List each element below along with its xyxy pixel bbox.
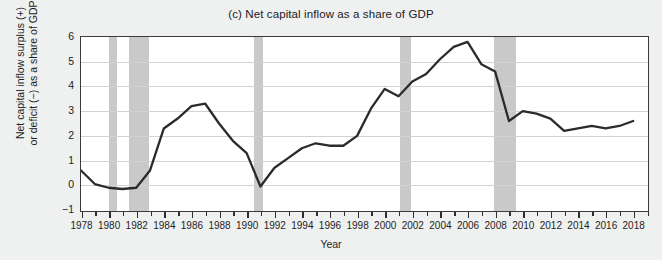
x-axis-tick-label: 2016	[595, 220, 617, 231]
x-axis-tick	[620, 212, 621, 216]
x-axis-tick-label: 1990	[236, 220, 258, 231]
x-axis-tick-label: 1978	[70, 220, 92, 231]
x-axis-tick-label: 2004	[429, 220, 451, 231]
x-axis-tick	[371, 212, 372, 216]
y-axis-tick-label: 6	[48, 30, 74, 42]
x-axis-tick	[634, 212, 635, 218]
y-axis-tick-label: 4	[48, 79, 74, 91]
y-axis-title: Net capital inflow surplus (+) or defici…	[14, 0, 40, 168]
x-axis-ticks	[80, 212, 649, 219]
x-axis-tick	[164, 212, 165, 218]
x-axis-tick	[261, 212, 262, 216]
x-axis-tick	[275, 212, 276, 218]
x-axis-tick	[399, 212, 400, 216]
chart-title: (c) Net capital inflow as a share of GDP	[0, 8, 662, 20]
x-axis-tick	[523, 212, 524, 218]
x-axis-tick	[206, 212, 207, 216]
x-axis-tick	[247, 212, 248, 218]
x-axis-tick	[551, 212, 552, 218]
x-axis-tick-label: 1992	[264, 220, 286, 231]
x-axis-tick	[565, 212, 566, 216]
x-axis-tick	[220, 212, 221, 218]
x-axis-tick	[82, 212, 83, 218]
y-axis-tick-label: −1	[48, 203, 74, 215]
x-axis-tick	[302, 212, 303, 218]
x-axis-tick	[358, 212, 359, 218]
x-axis-tick	[192, 212, 193, 218]
x-axis-tick-label: 1988	[208, 220, 230, 231]
x-axis-tick	[468, 212, 469, 218]
plot-area	[80, 36, 649, 212]
x-axis-tick	[482, 212, 483, 216]
x-axis-tick	[330, 212, 331, 218]
chart-figure: (c) Net capital inflow as a share of GDP…	[0, 0, 662, 260]
x-axis-tick-label: 2000	[374, 220, 396, 231]
y-axis-tick-label: 0	[48, 178, 74, 190]
y-axis-tick-label: 2	[48, 129, 74, 141]
x-axis-tick-label: 1986	[181, 220, 203, 231]
x-axis-tick	[344, 212, 345, 216]
x-axis-tick	[427, 212, 428, 216]
x-axis-tick	[137, 212, 138, 218]
x-axis-tick	[95, 212, 96, 216]
x-axis-tick-labels: 1978198019821984198619881990199219941996…	[0, 220, 662, 234]
x-axis-tick	[496, 212, 497, 218]
x-axis-tick	[578, 212, 579, 218]
y-axis-tick-label: 3	[48, 104, 74, 116]
plot-inner	[81, 37, 648, 211]
y-axis-title-line1: Net capital inflow surplus (+)	[14, 7, 26, 139]
x-axis-tick-label: 2012	[540, 220, 562, 231]
x-axis-tick	[109, 212, 110, 218]
x-axis-tick-label: 1994	[291, 220, 313, 231]
x-axis-tick	[592, 212, 593, 216]
x-axis-tick-label: 1984	[153, 220, 175, 231]
x-axis-tick-label: 1998	[346, 220, 368, 231]
x-axis-tick	[233, 212, 234, 216]
x-axis-tick	[537, 212, 538, 216]
x-axis-tick-label: 2018	[623, 220, 645, 231]
x-axis-tick	[440, 212, 441, 218]
x-axis-title: Year	[0, 238, 662, 250]
x-axis-tick-label: 2006	[457, 220, 479, 231]
x-axis-tick-label: 1980	[98, 220, 120, 231]
x-axis-tick	[289, 212, 290, 216]
x-axis-tick-label: 1996	[319, 220, 341, 231]
x-axis-tick-label: 2002	[402, 220, 424, 231]
x-axis-tick	[178, 212, 179, 216]
x-axis-tick-label: 1982	[126, 220, 148, 231]
y-axis-title-line2: or deficit (−) as a share of GDP	[27, 0, 39, 145]
x-axis-tick	[648, 212, 649, 216]
x-axis-tick	[151, 212, 152, 216]
x-axis-tick	[454, 212, 455, 216]
x-axis-tick-label: 2010	[512, 220, 534, 231]
x-axis-tick	[123, 212, 124, 216]
y-axis-tick-label: 1	[48, 154, 74, 166]
x-axis-tick	[509, 212, 510, 216]
x-axis-tick-label: 2014	[567, 220, 589, 231]
x-axis-tick	[385, 212, 386, 218]
x-axis-tick-label: 2008	[485, 220, 507, 231]
x-axis-tick	[606, 212, 607, 218]
y-axis-tick-labels: 6543210−1	[44, 36, 74, 212]
y-axis-tick-label: 5	[48, 55, 74, 67]
data-series-line	[81, 37, 647, 210]
x-axis-tick	[413, 212, 414, 218]
x-axis-tick	[316, 212, 317, 216]
